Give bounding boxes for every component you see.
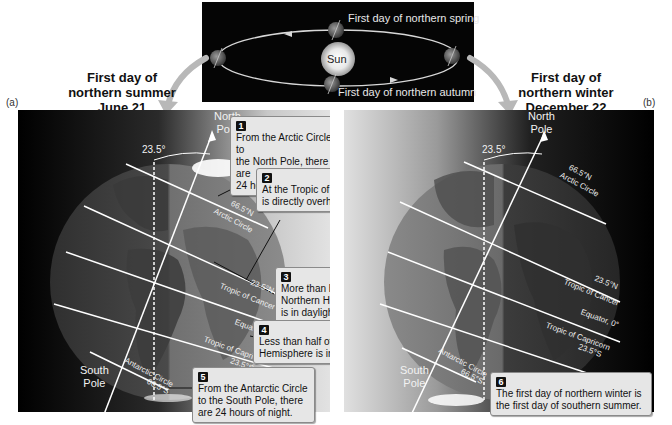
heading-winter-line2: northern winter [506, 85, 626, 100]
south-pole-label-b: South Pole [400, 364, 429, 390]
callout-number-4: 4 [259, 325, 269, 335]
globe-b-graphic [344, 110, 654, 412]
callout-number-5: 5 [198, 372, 208, 382]
callout-number-2: 2 [262, 173, 272, 183]
orbit-diagram: First day of northern spring First day o… [202, 2, 474, 102]
heading-summer-line2: northern summer [62, 85, 182, 100]
northern-spring-label: First day of northern spring [348, 12, 479, 24]
heading-summer: First day of northern summer June 21 [62, 70, 182, 115]
heading-winter: First day of northern winter December 22 [506, 70, 626, 115]
callout-6: 6 The first day of northern winter is th… [490, 372, 652, 416]
callout-number-1: 1 [236, 121, 246, 131]
south-pole-label-a: South Pole [80, 364, 109, 390]
northern-autumn-label: First day of northern autumn [338, 86, 476, 98]
panel-a-tag: (a) [6, 97, 18, 108]
panel-b-tag: (b) [643, 97, 655, 108]
heading-winter-line1: First day of [506, 70, 626, 85]
callout-number-6: 6 [496, 377, 506, 387]
tilt-angle-a: 23.5° [142, 144, 165, 155]
callout-number-3: 3 [281, 272, 291, 282]
callout-5: 5 From the Antarctic Circle to the South… [192, 367, 315, 423]
heading-summer-line1: First day of [62, 70, 182, 85]
panel-b-december-solstice: 23.5° North Pole South Pole 66.5°N Arcti… [344, 110, 654, 412]
panel-divider [330, 110, 344, 412]
sun-label: Sun [327, 53, 347, 65]
tilt-angle-b: 23.5° [482, 144, 505, 155]
north-pole-label-b: North Pole [528, 110, 555, 136]
